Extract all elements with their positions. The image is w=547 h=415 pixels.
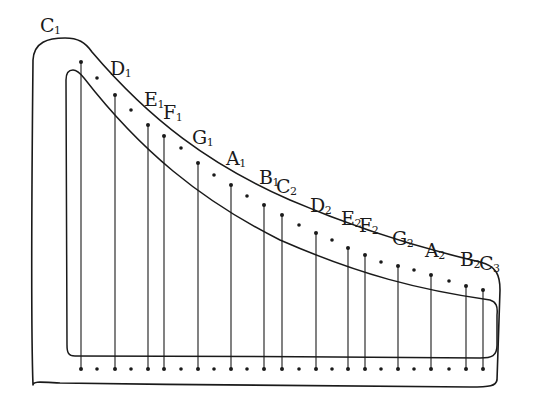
strings-layer [79,60,485,371]
note-letter: D [110,57,125,79]
chromatic-dot [129,367,133,371]
note-label-e1: E1 [144,90,164,110]
tuning-pin-dot [280,213,284,217]
tuning-pin-dot [113,93,117,97]
chromatic-dot [447,279,451,283]
note-label-b2: B2 [460,250,480,270]
tuning-pin-dot [481,288,485,292]
note-label-g1: G1 [192,128,213,148]
chromatic-dot [412,268,416,272]
string-anchor-dot [262,367,266,371]
string-anchor-dot [113,367,117,371]
harp-diagram: C1D1E1F1G1A1B1C2D2E2F2G2A2B2C3 [0,0,547,415]
octave-number: 2 [325,204,332,217]
chromatic-dot [245,367,249,371]
chromatic-dot [412,367,416,371]
string-anchor-dot [229,367,233,371]
chromatic-dot [212,367,216,371]
octave-number: 1 [239,157,246,170]
note-letter: E [341,207,354,229]
tuning-pin-dot [396,264,400,268]
note-letter: B [460,248,473,270]
tuning-pin-dot [262,203,266,207]
chromatic-dot [179,146,183,150]
chromatic-dot [330,238,334,242]
note-label-f1: F1 [163,103,182,123]
chromatic-dot [95,76,99,80]
octave-number: 2 [290,185,297,198]
string-anchor-dot [146,367,150,371]
note-letter: G [192,126,207,148]
note-letter: C [276,175,290,197]
octave-number: 1 [54,24,61,37]
string-anchor-dot [162,367,166,371]
octave-number: 3 [493,262,500,275]
note-label-d2: D2 [310,196,331,216]
note-letter: C [40,14,54,36]
tuning-pin-dot [363,253,367,257]
tuning-pin-dot [196,161,200,165]
chromatic-dot [245,194,249,198]
chromatic-dot [129,108,133,112]
chromatic-dot [379,260,383,264]
outer-frame-outline [32,38,500,387]
tuning-pin-dot [346,246,350,250]
harp-frame-drawing [0,0,547,415]
octave-number: 2 [438,249,445,262]
note-label-d1: D1 [110,59,131,79]
note-label-f2: F2 [359,216,378,236]
note-letter: A [425,239,438,261]
string-anchor-dot [429,367,433,371]
note-letter: A [226,147,239,169]
note-letter: B [259,166,272,188]
tuning-pin-dot [79,60,83,64]
string-anchor-dot [79,367,83,371]
chromatic-dot [297,367,301,371]
string-anchor-dot [481,367,485,371]
note-label-c1: C1 [40,16,61,36]
string-anchor-dot [363,367,367,371]
tuning-pin-dot [162,134,166,138]
note-label-c3: C3 [479,254,500,274]
tuning-pin-dot [314,231,318,235]
chromatic-dot [447,367,451,371]
chromatic-dot [297,223,301,227]
string-anchor-dot [196,367,200,371]
note-letter: F [359,214,372,236]
note-label-e2: E2 [341,209,361,229]
string-anchor-dot [396,367,400,371]
octave-number: 2 [372,224,379,237]
octave-number: 2 [407,237,414,250]
tuning-pin-dot [464,284,468,288]
octave-number: 1 [125,67,132,80]
chromatic-dot [95,367,99,371]
note-letter: D [310,194,325,216]
note-letter: E [144,88,157,110]
note-letter: F [163,101,176,123]
note-letter: G [392,227,407,249]
note-label-a1: A1 [226,149,246,169]
octave-number: 1 [207,136,214,149]
string-anchor-dot [464,367,468,371]
chromatic-dot [212,173,216,177]
tuning-pin-dot [146,123,150,127]
string-anchor-dot [280,367,284,371]
tuning-pin-dot [429,273,433,277]
tuning-pin-dot [229,183,233,187]
note-label-a2: A2 [425,241,445,261]
chromatic-dot [179,367,183,371]
string-anchor-dot [346,367,350,371]
octave-number: 1 [176,111,183,124]
note-label-c2: C2 [276,177,297,197]
chromatic-dot [330,367,334,371]
chromatic-dot [379,367,383,371]
string-anchor-dot [314,367,318,371]
note-letter: C [479,252,493,274]
note-label-g2: G2 [392,229,413,249]
